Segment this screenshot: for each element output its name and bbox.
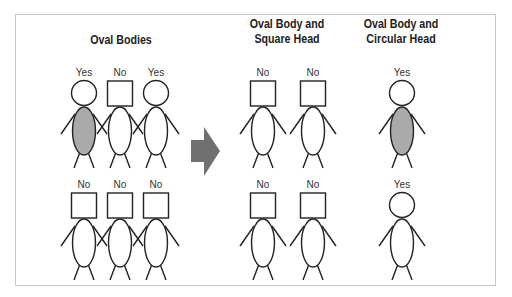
figure-label: No [257,67,270,78]
figure-oval-bodies-r2-c1 [61,193,107,280]
figures-canvas: Yes No Yes No No No No No No No [0,0,512,297]
figure-label: No [150,179,163,190]
figure-label: No [78,179,91,190]
figure-label: No [114,179,127,190]
figure-oval-bodies-r2-c3 [133,193,179,280]
figure-label: Yes [76,67,92,78]
figure-label: No [307,67,320,78]
figure-square-head-r1-c1 [240,81,286,168]
figure-label: No [114,67,127,78]
figure-label: No [307,179,320,190]
right-arrow-icon [191,127,220,176]
figure-label: Yes [148,67,164,78]
figure-oval-bodies-r1-c1 [61,81,107,169]
figure-label: No [257,179,270,190]
figure-circular-head-r1 [379,81,425,169]
figure-square-head-r1-c2 [290,81,336,168]
figure-square-head-r2-c1 [240,193,286,280]
figure-oval-bodies-r2-c2 [97,193,143,280]
figure-square-head-r2-c2 [290,193,336,280]
figure-label: Yes [394,67,410,78]
figure-label: Yes [394,179,410,190]
figure-oval-bodies-r1-c3 [133,81,179,169]
figure-circular-head-r2 [379,193,425,281]
figure-oval-bodies-r1-c2 [97,81,143,168]
